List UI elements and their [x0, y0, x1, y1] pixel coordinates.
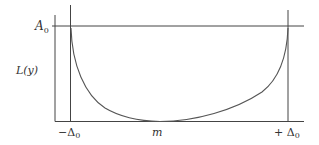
y-axis-label: L(y)	[15, 64, 38, 77]
l-of-y-curve	[71, 28, 288, 122]
plus-delta-label: + Δ0	[274, 126, 300, 140]
minus-delta-label: −Δ0	[58, 126, 80, 140]
a0-label: A0	[34, 19, 49, 35]
l-of-y-diagram: A0 L(y) −Δ0 m + Δ0	[0, 0, 319, 145]
m-label: m	[152, 126, 162, 139]
